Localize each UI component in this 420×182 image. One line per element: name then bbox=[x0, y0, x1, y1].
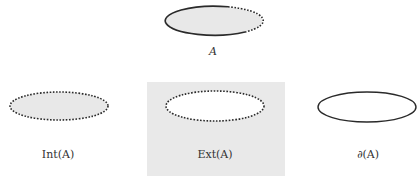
label-set-a-text: A bbox=[209, 45, 217, 58]
interior-shape bbox=[10, 92, 108, 120]
set-a-shape bbox=[164, 6, 263, 35]
label-interior: Int(A) bbox=[42, 148, 74, 161]
exterior-hole-shape bbox=[166, 91, 264, 121]
label-exterior: Ext(A) bbox=[197, 148, 232, 161]
boundary-shape bbox=[318, 92, 416, 122]
label-set-a: A bbox=[209, 45, 217, 58]
label-boundary: ∂(A) bbox=[357, 148, 379, 161]
